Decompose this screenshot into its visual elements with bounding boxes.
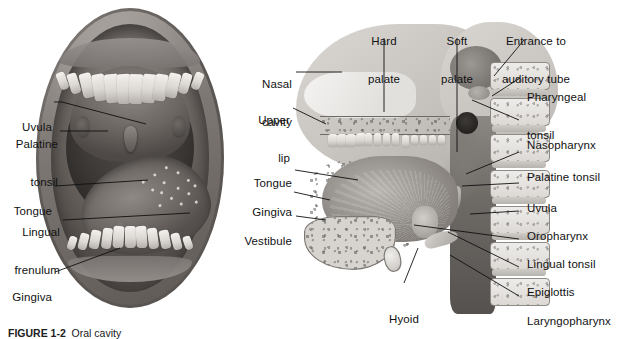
tooth-upper bbox=[191, 71, 206, 91]
palatine-tonsil-right-shape bbox=[172, 116, 186, 138]
tooth-lower bbox=[170, 232, 183, 250]
tongue-papilla bbox=[186, 178, 190, 182]
tooth-lower bbox=[147, 227, 160, 249]
tooth-sagittal bbox=[438, 135, 445, 145]
tooth-lower bbox=[77, 232, 90, 250]
label-vestibule: Vestibule bbox=[232, 210, 292, 273]
tongue-papilla bbox=[195, 200, 199, 204]
label-gingiva: Gingiva bbox=[2, 266, 52, 329]
label-hyoid-bone: Hyoid bone bbox=[378, 288, 430, 339]
tooth-sagittal bbox=[374, 133, 381, 146]
tooth-sagittal bbox=[392, 133, 399, 146]
tongue-papilla bbox=[176, 187, 180, 191]
tongue-papilla bbox=[187, 192, 191, 196]
tooth-sagittal bbox=[402, 135, 409, 148]
tooth-lower bbox=[100, 227, 113, 249]
palatine-tonsil-left-shape bbox=[76, 116, 90, 138]
tongue-papilla bbox=[151, 188, 155, 192]
tooth-sagittal bbox=[420, 135, 427, 145]
tongue-papilla bbox=[158, 204, 162, 208]
tongue-papilla bbox=[160, 191, 164, 195]
figure-caption-number: FIGURE 1-2 bbox=[8, 327, 66, 339]
tongue-papilla bbox=[163, 181, 167, 185]
tooth-lower bbox=[158, 229, 171, 249]
tooth-lower bbox=[89, 229, 102, 249]
tongue-papilla bbox=[164, 166, 168, 170]
tongue-papilla bbox=[193, 184, 197, 188]
tooth-lower bbox=[125, 226, 136, 248]
figure-caption: FIGURE 1-2 Oral cavity bbox=[8, 327, 121, 339]
lower-teeth-row bbox=[66, 226, 194, 268]
label-soft-palate: Soft palate bbox=[429, 10, 485, 111]
tooth-sagittal bbox=[346, 134, 356, 147]
tongue-papilla bbox=[176, 171, 180, 175]
tongue-papilla bbox=[141, 180, 145, 184]
auditory-tube-opening-shape bbox=[456, 112, 478, 134]
figure-caption-text: Oral cavity bbox=[72, 327, 122, 339]
tongue-papilla bbox=[179, 202, 183, 206]
upper-dental-arch bbox=[324, 132, 448, 154]
tooth-lower bbox=[182, 235, 194, 251]
tongue-papilla bbox=[153, 173, 157, 177]
label-hard-palate: Hard palate bbox=[356, 10, 412, 111]
tongue-papilla bbox=[170, 197, 174, 201]
tooth-lower bbox=[136, 226, 148, 248]
oral-cavity-anterior-illustration bbox=[36, 8, 224, 308]
tooth-sagittal bbox=[365, 133, 372, 146]
tooth-lower bbox=[66, 235, 78, 251]
upper-teeth-row bbox=[56, 48, 204, 104]
label-laryngopharynx: Laryngopharynx bbox=[527, 290, 627, 339]
tooth-sagittal bbox=[429, 135, 436, 145]
tooth-lower bbox=[112, 226, 124, 248]
tooth-sagittal bbox=[383, 133, 390, 146]
anatomy-figure: Uvula Palatine tonsil Tongue Lingual fre… bbox=[0, 0, 627, 339]
tooth-sagittal bbox=[411, 135, 418, 145]
